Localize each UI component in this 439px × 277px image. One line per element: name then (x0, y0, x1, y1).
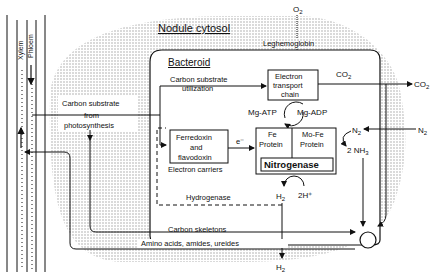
two-h-plus-label: 2H⁺ (298, 191, 312, 200)
electron-carriers-label: Electron carriers (168, 165, 223, 174)
e-minus-label: e⁻ (236, 137, 244, 146)
assimilation-node (360, 232, 376, 248)
mg-adp-label: Mg-ADP (297, 108, 327, 117)
etc-line3: chain (281, 90, 299, 99)
n2-outer-label: N2 (418, 126, 428, 136)
fe-protein-line2: Protein (259, 140, 283, 149)
ferredoxin-line2: and (190, 143, 203, 152)
phloem-label: Phloem (27, 34, 34, 58)
bacteroid-title: Bacteroid (168, 57, 210, 68)
o2-top-label: O2 (293, 5, 303, 15)
leghemoglobin-label: Leghemoglobin (263, 39, 314, 48)
ferredoxin-line3: flavodoxin (178, 153, 212, 162)
carbon-util-line2: utilization (182, 84, 213, 93)
carbon-from-line3: photosynthesis (64, 121, 114, 130)
carbon-skeletons-label: Carbon skeletons (168, 225, 227, 234)
mofe-protein-line2: Protein (300, 140, 324, 149)
fe-protein-line1: Fe (268, 130, 277, 139)
mofe-protein-line1: Mo-Fe (302, 130, 324, 139)
h2-bottom-label: H2 (276, 263, 286, 273)
co2-outer-label: CO2 (414, 80, 430, 90)
ferredoxin-line1: Ferredoxin (176, 133, 212, 142)
carbon-from-line1: Carbon substrate (62, 99, 120, 108)
xylem-label: Xylem (17, 40, 25, 60)
mg-atp-label: Mg-ATP (248, 108, 277, 117)
nitrogenase-label: Nitrogenase (264, 159, 319, 170)
nodule-cytosol-title: Nodule cytosol (158, 22, 230, 34)
etc-line1: Electron (275, 72, 303, 81)
nitrogen-fixation-diagram: Xylem Phloem Nodule cytosol O2 Leghemogl… (0, 0, 439, 277)
vascular-bundle (7, 15, 45, 272)
etc-line2: transport (273, 81, 304, 90)
amino-acids-label: Amino acids, amides, ureides (141, 239, 239, 248)
carbon-util-line1: Carbon substrate (170, 75, 228, 84)
hydrogenase-label: Hydrogenase (186, 193, 231, 202)
